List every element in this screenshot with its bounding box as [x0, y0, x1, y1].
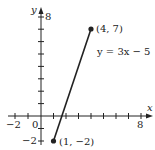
origin-label: 0 [32, 119, 38, 130]
endpoint-4-7 [88, 26, 93, 31]
line-y-3x-minus-5 [54, 29, 92, 141]
y-tick-label-8: 8 [45, 11, 51, 22]
equation-label: y = 3x − 5 [96, 46, 151, 57]
y-axis-arrow-icon [39, 7, 44, 14]
x-axis [8, 113, 153, 119]
x-axis-arrow-icon [146, 114, 153, 119]
line-segment-graph: y 8 x −2 0 8 −2 (4, 7) (1, −2) y = 3x − … [0, 0, 155, 150]
y-axis-label: y [30, 4, 37, 15]
endpoint-1-neg2 [51, 138, 56, 143]
x-tick-label-8: 8 [137, 119, 143, 130]
point-label-4-7: (4, 7) [96, 23, 123, 34]
y-axis [38, 7, 44, 145]
y-tick-label-neg2: −2 [22, 135, 37, 146]
point-label-1-neg2: (1, −2) [59, 136, 94, 147]
x-tick-label-neg2: −2 [6, 119, 21, 130]
x-axis-label: x [147, 102, 153, 113]
